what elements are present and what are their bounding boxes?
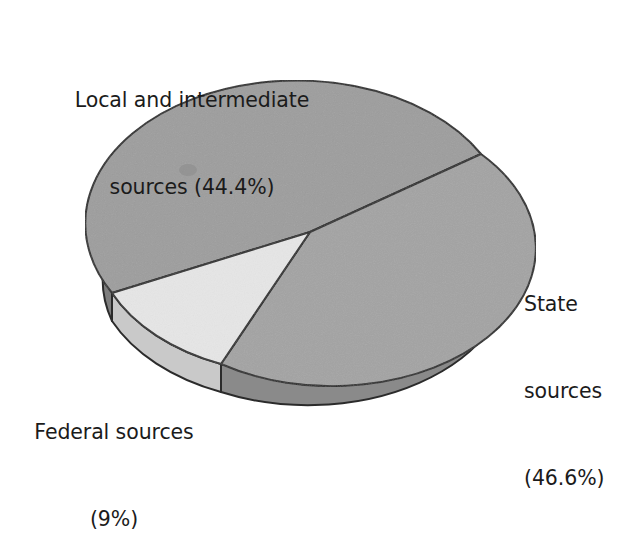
slice-label-local-line2: sources (44.4%) [62, 173, 322, 202]
slice-label-state-line2: sources [524, 377, 639, 406]
slice-label-federal-sources: Federal sources (9%) [14, 360, 214, 533]
slice-label-state-line3: (46.6%) [524, 464, 639, 493]
slice-label-local-line1: Local and intermediate [62, 86, 322, 115]
slice-label-state-sources: State sources (46.6%) [524, 232, 639, 533]
slice-label-federal-line1: Federal sources [14, 418, 214, 447]
slice-label-state-line1: State [524, 290, 639, 319]
slice-label-local-and-intermediate-sources: Local and intermediate sources (44.4%) [62, 28, 322, 260]
slice-label-federal-line2: (9%) [14, 505, 214, 533]
